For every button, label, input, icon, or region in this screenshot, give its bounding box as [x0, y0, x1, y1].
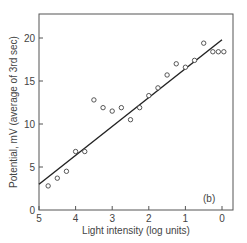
- svg-text:5: 5: [36, 213, 42, 224]
- data-point: [73, 149, 77, 153]
- data-point: [137, 105, 141, 109]
- chart: 05101520 543210 (b) Light intensity (log…: [0, 0, 247, 243]
- data-point: [119, 105, 123, 109]
- svg-text:3: 3: [109, 213, 115, 224]
- data-point: [128, 118, 132, 122]
- svg-text:10: 10: [24, 119, 36, 130]
- data-point: [174, 62, 178, 66]
- data-point: [183, 65, 187, 69]
- data-point: [55, 176, 59, 180]
- data-point: [110, 109, 114, 113]
- svg-text:4: 4: [73, 213, 79, 224]
- y-axis-ticks: 05101520: [24, 33, 43, 216]
- x-axis-label: Light intensity (log units): [82, 225, 190, 236]
- data-point: [211, 50, 215, 54]
- x-axis-ticks: 543210: [36, 206, 225, 224]
- svg-text:15: 15: [24, 76, 36, 87]
- data-point: [147, 93, 151, 97]
- data-point: [83, 149, 87, 153]
- svg-text:0: 0: [29, 205, 35, 216]
- data-point: [92, 98, 96, 102]
- data-point: [216, 50, 220, 54]
- data-point: [202, 41, 206, 45]
- svg-text:5: 5: [29, 162, 35, 173]
- data-point: [165, 73, 169, 77]
- data-point: [46, 184, 50, 188]
- svg-text:1: 1: [183, 213, 189, 224]
- svg-text:20: 20: [24, 33, 36, 44]
- svg-text:2: 2: [146, 213, 152, 224]
- y-axis-label: Potential, mV (average of 3rd sec): [8, 36, 19, 188]
- data-point: [222, 50, 226, 54]
- data-point: [156, 86, 160, 90]
- data-point: [192, 58, 196, 62]
- panel-label: (b): [203, 193, 215, 204]
- svg-text:0: 0: [219, 213, 225, 224]
- data-point: [101, 105, 105, 109]
- data-point: [64, 169, 68, 173]
- data-points: [46, 41, 226, 188]
